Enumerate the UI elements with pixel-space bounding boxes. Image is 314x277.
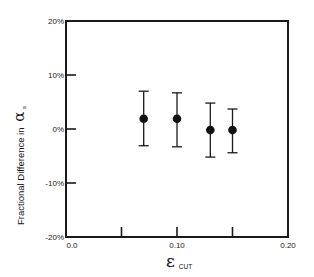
x-tick-label: 0.0	[66, 241, 78, 250]
data-point	[139, 114, 148, 123]
chart: -20%-10%0%10%20% 0.00.100.20 Fractional …	[0, 0, 314, 277]
x-tick-label: 0.10	[169, 241, 185, 250]
data-point	[228, 126, 237, 135]
x-axis-label: ε CUT	[166, 251, 192, 271]
data-point	[173, 114, 182, 123]
y-tick-label: 0%	[52, 125, 64, 134]
alpha-symbol: α	[10, 112, 28, 122]
epsilon-subscript: CUT	[179, 263, 192, 270]
data-point	[206, 126, 215, 135]
x-tick-label: 0.20	[280, 241, 296, 250]
alpha-subscript: s	[21, 106, 27, 109]
data-point-group	[205, 103, 215, 157]
x-axis: 0.00.100.20	[66, 227, 296, 250]
data-point-group	[139, 91, 149, 146]
y-axis: -20%-10%0%10%20%	[45, 17, 76, 242]
y-tick-label: -10%	[45, 179, 64, 188]
y-axis-label-text: Fractional Difference in	[15, 127, 26, 225]
data-series	[139, 91, 238, 157]
data-point-group	[172, 93, 182, 147]
y-tick-label: 10%	[48, 71, 64, 80]
y-tick-label: -20%	[45, 233, 64, 242]
data-point-group	[228, 109, 238, 153]
y-tick-label: 20%	[48, 17, 64, 26]
epsilon-symbol: ε	[166, 251, 175, 271]
y-axis-label: Fractional Difference in α s	[10, 106, 28, 225]
